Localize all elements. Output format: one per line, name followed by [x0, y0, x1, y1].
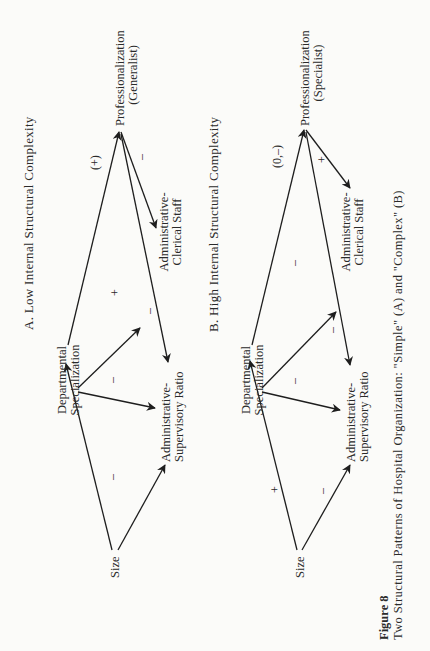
svg-text:Specialization: Specialization — [68, 344, 82, 416]
figure-caption-text: Two Structural Patterns of Hospital Orga… — [391, 190, 405, 640]
svg-text:Clerical Staff: Clerical Staff — [170, 198, 184, 266]
sign-dept-acs: – — [287, 259, 301, 267]
edge-dept-to-acs — [262, 312, 336, 388]
edge-dept-to-asr — [78, 392, 155, 408]
node-admin-supervisory-ratio: Administrative- Supervisory Ratio — [159, 371, 186, 462]
edge-size-to-asr — [118, 465, 165, 550]
edge-dept-to-asr — [262, 392, 340, 410]
svg-text:Administrative-: Administrative- — [159, 383, 173, 462]
sign-dept-asr: – — [287, 377, 301, 385]
edge-size-to-asr — [302, 465, 350, 550]
sign-dept-acs: + — [108, 289, 122, 296]
svg-text:(Generalist): (Generalist) — [126, 45, 140, 105]
sign-dept-prof: (0,–) — [270, 145, 284, 168]
sign-prof-asr: – — [325, 326, 339, 334]
svg-text:Specialization: Specialization — [252, 344, 266, 416]
figure-caption: Figure 8 Two Structural Patterns of Hosp… — [377, 190, 405, 640]
sign-prof-asr: – — [142, 307, 156, 315]
svg-text:Administrative-: Administrative- — [157, 192, 171, 271]
node-departmental-specialization: Departmental Specialization — [239, 344, 266, 416]
node-professionalization: Professionalization (Generalist) — [113, 29, 140, 126]
panel-b-title: B. High Internal Structural Complexity — [206, 116, 221, 332]
sign-prof-acs: – — [134, 153, 148, 161]
svg-text:Departmental: Departmental — [55, 345, 69, 414]
svg-text:Clerical Staff: Clerical Staff — [352, 198, 366, 266]
edge-prof-to-acs — [121, 132, 156, 228]
svg-text:(Specialist): (Specialist) — [311, 45, 325, 102]
node-departmental-specialization: Departmental Specialization — [55, 344, 82, 416]
sign-size-asr: – — [105, 473, 119, 481]
sign-size-asr: – — [315, 487, 329, 495]
figure-number: Figure 8 — [377, 595, 391, 640]
sign-dept-asr: – — [105, 376, 119, 384]
node-size: Size — [293, 556, 307, 578]
sign-prof-acs: + — [315, 156, 329, 163]
svg-text:Administrative-: Administrative- — [344, 383, 358, 462]
svg-text:Administrative-: Administrative- — [339, 192, 353, 271]
svg-text:Supervisory Ratio: Supervisory Ratio — [357, 371, 371, 462]
node-professionalization: Professionalization (Specialist) — [298, 29, 325, 126]
sign-dept-prof: (+) — [88, 155, 102, 170]
figure-canvas: A. Low Internal Structural Complexity – … — [0, 0, 430, 651]
svg-text:Supervisory Ratio: Supervisory Ratio — [172, 371, 186, 462]
svg-text:Professionalization: Professionalization — [113, 29, 127, 126]
svg-text:Professionalization: Professionalization — [298, 29, 312, 126]
sign-size-dept: + — [268, 486, 282, 493]
node-admin-supervisory-ratio: Administrative- Supervisory Ratio — [344, 371, 371, 462]
panel-b: B. High Internal Structural Complexity +… — [206, 29, 371, 578]
node-admin-clerical-staff: Administrative- Clerical Staff — [157, 192, 184, 271]
panel-a: A. Low Internal Structural Complexity – … — [21, 29, 186, 578]
panel-a-title: A. Low Internal Structural Complexity — [21, 116, 36, 330]
svg-text:Departmental: Departmental — [239, 345, 253, 414]
node-size: Size — [108, 556, 122, 578]
node-admin-clerical-staff: Administrative- Clerical Staff — [339, 192, 366, 271]
